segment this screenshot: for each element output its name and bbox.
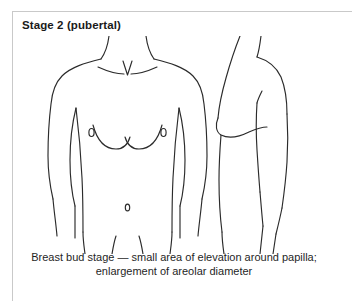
profile-inner-arm-line: [256, 103, 260, 192]
profile-neck-back-line: [257, 36, 261, 57]
nipple-right: [161, 129, 166, 137]
left-torso-outline: [76, 108, 83, 232]
page-title: Stage 2 (pubertal): [22, 19, 121, 31]
left-forearm-line: [53, 199, 57, 236]
caption-line-2: enlargement of areolar diameter: [13, 264, 335, 278]
figure-area: [13, 36, 349, 254]
right-clavicle-line: [131, 67, 157, 74]
sternal-notch-icon: [123, 61, 132, 75]
right-inner-arm-line: [179, 108, 185, 206]
profile-buttock-line: [276, 208, 282, 234]
profile-back-outline: [282, 114, 288, 208]
anterior-torso-view: [48, 36, 207, 254]
breast-bud-elevation: [216, 118, 267, 137]
lateral-profile-view: [216, 36, 287, 254]
profile-arm-crease: [257, 91, 262, 103]
neck-right-line: [146, 36, 154, 59]
left-inner-arm-line: [70, 108, 76, 206]
profile-abdomen-line: [219, 135, 222, 232]
caption-line-1: Breast bud stage — small area of elevati…: [13, 250, 335, 264]
tanner-stage-illustration: [13, 36, 349, 254]
caption: Breast bud stage — small area of elevati…: [13, 250, 335, 278]
profile-shoulder-outline: [257, 57, 287, 114]
profile-forearm-line: [260, 192, 263, 226]
left-clavicle-line: [98, 67, 124, 74]
profile-chest-front-line: [218, 36, 240, 118]
stage-card: Stage 2 (pubertal): [12, 11, 352, 301]
neck-left-line: [101, 36, 109, 59]
right-torso-outline: [172, 108, 179, 232]
navel: [125, 204, 129, 211]
right-forearm-line: [198, 199, 202, 236]
nipple-left: [89, 129, 94, 137]
